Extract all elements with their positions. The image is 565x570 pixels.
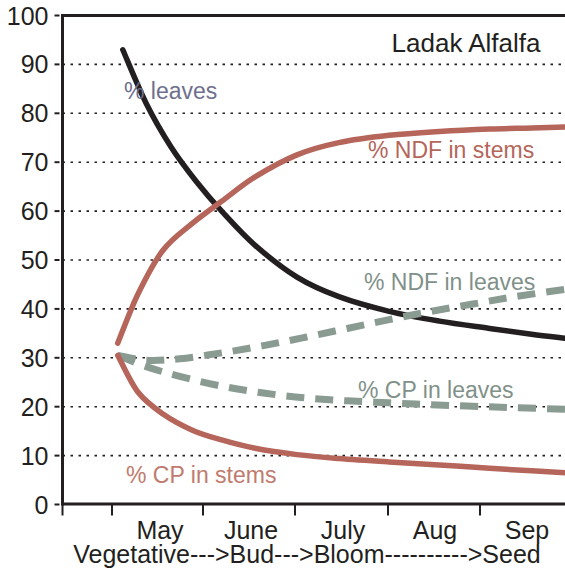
y-tick-label: 60 bbox=[21, 197, 49, 225]
y-tick-label: 80 bbox=[21, 99, 49, 127]
y-tick-label: 30 bbox=[21, 344, 49, 372]
y-axis-tick-labels: 0102030405060708090100 bbox=[7, 2, 49, 519]
y-tick-label: 100 bbox=[7, 2, 49, 30]
x-axis-ticks bbox=[63, 505, 481, 516]
y-tick-label: 0 bbox=[35, 491, 49, 519]
x-axis-label: Vegetative--->Bud--->Bloom---------->See… bbox=[73, 540, 541, 568]
y-tick-label: 20 bbox=[21, 393, 49, 421]
y-tick-label: 70 bbox=[21, 148, 49, 176]
series-annotation: % NDF in stems bbox=[368, 137, 534, 163]
series-annotation: % CP in stems bbox=[126, 462, 276, 488]
y-tick-label: 50 bbox=[21, 246, 49, 274]
y-tick-label: 10 bbox=[21, 442, 49, 470]
chart-container: 0102030405060708090100 MayJuneJulyAugSep… bbox=[0, 0, 565, 570]
chart-title: Ladak Alfalfa bbox=[392, 28, 541, 58]
line-chart: 0102030405060708090100 MayJuneJulyAugSep… bbox=[0, 0, 565, 570]
y-tick-label: 90 bbox=[21, 50, 49, 78]
y-tick-label: 40 bbox=[21, 295, 49, 323]
series-annotation: % leaves bbox=[124, 78, 217, 104]
series-annotation: % CP in leaves bbox=[358, 377, 514, 403]
series-annotation: % NDF in leaves bbox=[364, 269, 535, 295]
y-axis-ticks bbox=[55, 16, 60, 505]
